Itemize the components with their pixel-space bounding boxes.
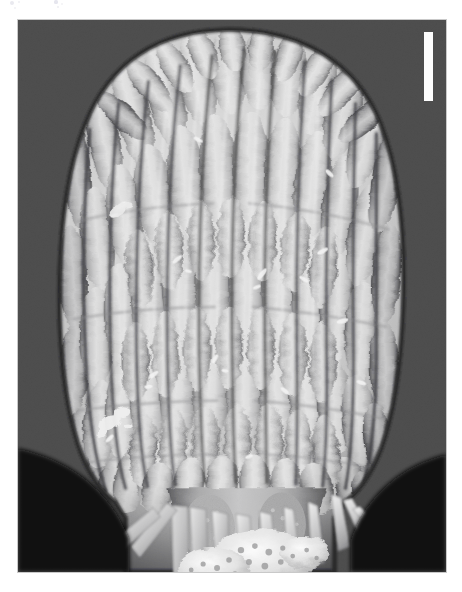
micrograph-panel: [17, 19, 447, 573]
scan-speck: [10, 1, 14, 5]
scale-bar: [424, 32, 433, 101]
page-root: [0, 0, 462, 592]
scan-speck: [14, 7, 16, 9]
scan-speck: [54, 0, 57, 3]
scan-speck: [57, 6, 59, 8]
sem-micrograph-image: [18, 20, 446, 572]
scan-speck: [61, 3, 63, 5]
global-sem-grain: [18, 20, 446, 572]
scan-speck: [18, 1, 21, 4]
